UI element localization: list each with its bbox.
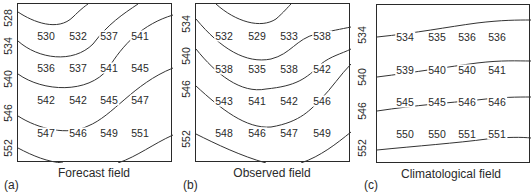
grid-value: 547 [279, 128, 299, 139]
grid-value: 538 [214, 64, 234, 75]
y-tick: 534 [356, 26, 368, 44]
grid-value: 545 [395, 97, 415, 108]
y-tick: 546 [180, 80, 192, 98]
grid-value: 542 [68, 95, 88, 106]
contour-lines [377, 5, 531, 164]
grid-value: 550 [395, 129, 415, 140]
grid-value: 551 [487, 129, 507, 140]
grid-value: 551 [130, 128, 150, 139]
panel-caption: Climatological field [401, 167, 501, 181]
grid-value: 536 [487, 32, 507, 43]
y-tick: 540 [180, 47, 192, 65]
grid-value: 534 [395, 32, 415, 43]
grid-value: 542 [312, 64, 332, 75]
grid-value: 546 [68, 128, 88, 139]
grid-value: 541 [130, 31, 150, 42]
grid-value: 547 [130, 95, 150, 106]
contour-lines [18, 4, 173, 163]
grid-value: 548 [214, 128, 234, 139]
grid-value: 536 [457, 32, 477, 43]
grid-value: 529 [247, 31, 267, 42]
grid-value: 541 [99, 63, 119, 74]
y-tick: 552 [2, 139, 14, 157]
grid-value: 542 [279, 96, 299, 107]
grid-value: 535 [247, 64, 267, 75]
panel-observed: 534 540 546 552 532 529 533 538 538 535 … [175, 0, 350, 194]
grid-value: 546 [487, 97, 507, 108]
y-tick: 552 [180, 130, 192, 148]
grid-value: 541 [487, 65, 507, 76]
grid-value: 539 [395, 65, 415, 76]
grid-value: 537 [68, 63, 88, 74]
y-tick: 546 [2, 104, 14, 122]
y-tick: 552 [356, 139, 368, 157]
grid-value: 547 [36, 128, 56, 139]
grid-value: 530 [36, 31, 56, 42]
panel-forecast: 528 534 540 546 552 530 532 537 541 536 … [0, 0, 175, 194]
grid-value: 549 [312, 128, 332, 139]
grid-value: 550 [427, 129, 447, 140]
contour-lines [196, 4, 351, 163]
grid-value: 546 [312, 96, 332, 107]
grid-value: 545 [99, 95, 119, 106]
contour-plot: 534 535 536 536 539 540 540 541 545 545 … [376, 4, 530, 163]
y-tick: 546 [356, 102, 368, 120]
panel-caption: Observed field [233, 166, 310, 180]
grid-value: 541 [247, 96, 267, 107]
y-tick: 534 [180, 15, 192, 33]
grid-value: 545 [427, 97, 447, 108]
grid-value: 537 [99, 31, 119, 42]
grid-value: 540 [427, 65, 447, 76]
grid-value: 538 [279, 64, 299, 75]
grid-value: 532 [214, 31, 234, 42]
grid-value: 545 [130, 63, 150, 74]
panel-letter: (a) [4, 178, 19, 192]
y-tick: 540 [356, 68, 368, 86]
panel-letter: (b) [183, 178, 198, 192]
grid-value: 538 [312, 31, 332, 42]
y-tick: 528 [2, 9, 14, 27]
grid-value: 532 [68, 31, 88, 42]
contour-plot: 532 529 533 538 538 535 538 542 543 541 … [195, 3, 350, 162]
grid-value: 549 [99, 128, 119, 139]
grid-value: 551 [457, 129, 477, 140]
panel-climatological: 534 540 546 552 534 535 536 536 539 540 … [348, 0, 528, 194]
grid-value: 542 [36, 95, 56, 106]
grid-value: 546 [457, 97, 477, 108]
y-tick: 540 [2, 70, 14, 88]
contour-plot: 530 532 537 541 536 537 541 545 542 542 … [17, 3, 172, 162]
grid-value: 543 [214, 96, 234, 107]
grid-value: 540 [457, 65, 477, 76]
grid-value: 536 [36, 63, 56, 74]
grid-value: 546 [247, 128, 267, 139]
panel-caption: Forecast field [58, 166, 130, 180]
grid-value: 535 [427, 32, 447, 43]
panel-letter: (c) [364, 178, 378, 192]
y-tick: 534 [2, 37, 14, 55]
grid-value: 533 [279, 31, 299, 42]
